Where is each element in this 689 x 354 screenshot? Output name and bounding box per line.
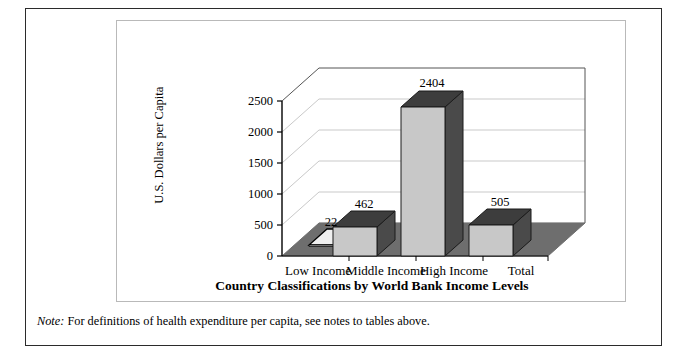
footnote-text: For definitions of health expenditure pe… bbox=[64, 314, 429, 328]
bar-high-income[interactable] bbox=[401, 91, 463, 256]
value-label-middle-income: 462 bbox=[338, 198, 390, 211]
y-tick-label-500: 500 bbox=[217, 219, 273, 232]
y-tick-label-2500: 2500 bbox=[217, 95, 273, 108]
x-axis-title: Country Classifications by World Bank In… bbox=[172, 279, 572, 293]
y-tick-label-1000: 1000 bbox=[217, 188, 273, 201]
y-tick-label-0: 0 bbox=[217, 250, 273, 263]
bar-front-face bbox=[401, 107, 445, 256]
x-category-label-low-income: Low Income bbox=[283, 264, 353, 277]
value-label-total: 505 bbox=[474, 196, 526, 209]
bar-front-face bbox=[469, 225, 513, 256]
value-label-high-income: 2404 bbox=[406, 77, 458, 90]
bar-side-face bbox=[445, 91, 463, 256]
x-category-label-total: Total bbox=[491, 264, 551, 277]
chart-panel: 2500 2000 1500 1000 500 0 22 462 2404 50… bbox=[116, 20, 626, 302]
bar-front-face bbox=[333, 227, 377, 256]
y-tick-marks bbox=[277, 101, 282, 256]
x-tick-marks bbox=[349, 256, 548, 261]
y-axis-title: U.S. Dollars per Capita bbox=[153, 65, 166, 225]
x-category-label-high-income: High Income bbox=[417, 264, 491, 277]
plot-area: 2500 2000 1500 1000 500 0 22 462 2404 50… bbox=[117, 21, 627, 303]
y-tick-label-1500: 1500 bbox=[217, 157, 273, 170]
chart-svg bbox=[117, 21, 627, 303]
x-category-label-middle-income: Middle Income bbox=[345, 264, 427, 277]
y-tick-label-2000: 2000 bbox=[217, 126, 273, 139]
figure-frame: 2500 2000 1500 1000 500 0 22 462 2404 50… bbox=[25, 8, 662, 346]
footnote-label: Note: bbox=[37, 314, 64, 328]
value-label-low-income: 22 bbox=[305, 216, 357, 229]
figure-footnote: Note: For definitions of health expendit… bbox=[37, 314, 647, 329]
